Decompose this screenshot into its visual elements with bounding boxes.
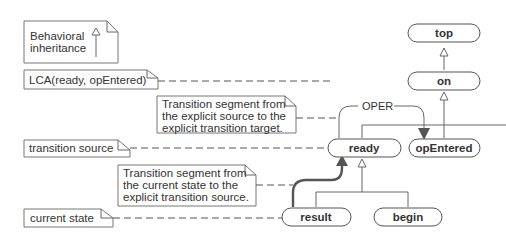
explicit-segment-note: Transition segment from the explicit sou…	[157, 96, 296, 134]
state-begin-label: begin	[393, 211, 424, 223]
current-state-label: current state	[30, 212, 94, 224]
current-line3: explicit transition source.	[123, 191, 249, 203]
state-result[interactable]: result	[282, 208, 351, 226]
state-on[interactable]: on	[408, 72, 480, 90]
legend-line1: Behavioral	[30, 30, 84, 42]
state-diagram: Behavioral inheritance LCA(ready, opEnte…	[0, 0, 506, 242]
state-result-label: result	[300, 211, 331, 223]
state-top[interactable]: top	[408, 24, 480, 42]
inheritance-arrow-icon	[358, 159, 366, 167]
explicit-line3: explicit transition target.	[162, 122, 283, 134]
current-line2: the current state to the	[123, 179, 238, 191]
state-ready[interactable]: ready	[328, 139, 401, 157]
current-state-note: current state	[24, 209, 113, 227]
current-line1: Transition segment from	[123, 167, 247, 179]
state-on-label: on	[437, 75, 451, 87]
state-begin[interactable]: begin	[374, 208, 442, 226]
inheritance-arrow-icon	[440, 92, 448, 100]
filled-arrow-icon	[418, 128, 430, 140]
legend-line2: inheritance	[30, 42, 86, 54]
transition-source-note: transition source	[24, 140, 130, 157]
state-ready-label: ready	[349, 142, 380, 154]
state-top-label: top	[435, 27, 453, 39]
current-segment-note: Transition segment from the current stat…	[118, 165, 256, 206]
explicit-line2: the explicit source to the	[162, 110, 286, 122]
state-opEntered[interactable]: opEntered	[409, 139, 480, 157]
explicit-line1: Transition segment from	[162, 98, 286, 110]
transition-source-label: transition source	[29, 142, 113, 154]
lca-note: LCA(ready, opEntered)	[24, 70, 158, 89]
oper-label: OPER	[362, 100, 393, 112]
inheritance-arrow-icon	[440, 48, 448, 56]
state-opEntered-label: opEntered	[416, 142, 473, 154]
lca-label: LCA(ready, opEntered)	[29, 74, 147, 86]
current-to-source-segment	[293, 162, 342, 207]
legend-note: Behavioral inheritance	[24, 21, 118, 63]
